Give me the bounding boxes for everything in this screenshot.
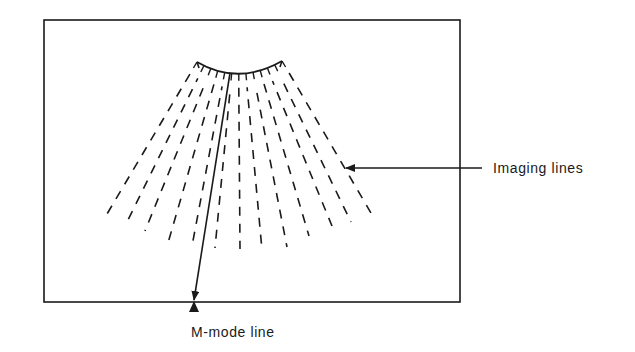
transducer-tick bbox=[267, 68, 270, 75]
sector-scan-diagram: Imaging lines M-mode line bbox=[0, 0, 635, 352]
transducer-tick bbox=[246, 73, 247, 80]
label-m-mode-line: M-mode line bbox=[191, 324, 275, 340]
imaging-line bbox=[239, 88, 240, 249]
imaging-line bbox=[107, 74, 190, 214]
transducer-tick bbox=[253, 72, 254, 79]
imaging-line bbox=[215, 87, 230, 248]
m-mode-line bbox=[194, 73, 230, 300]
imaging-line bbox=[145, 82, 206, 231]
transducer-tick bbox=[260, 70, 262, 77]
display-frame bbox=[44, 20, 460, 302]
transducer-ticks bbox=[193, 61, 285, 81]
imaging-line bbox=[289, 73, 371, 213]
imaging-line bbox=[127, 78, 198, 222]
transducer-tick bbox=[208, 69, 211, 76]
transducer-tick bbox=[201, 66, 204, 72]
imaging-line bbox=[273, 81, 333, 226]
imaging-line bbox=[281, 77, 351, 222]
transducer-tick bbox=[275, 65, 278, 71]
imaging-lines-fan bbox=[107, 73, 371, 250]
transducer-tick bbox=[216, 71, 218, 78]
transducer-tick bbox=[231, 74, 232, 81]
label-imaging-lines: Imaging lines bbox=[493, 160, 583, 176]
transducer-tick bbox=[223, 73, 224, 80]
imaging-line bbox=[247, 87, 262, 250]
